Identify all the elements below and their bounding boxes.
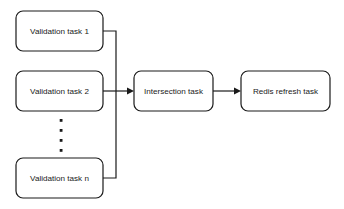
node-validation-task-2[interactable]: Validation task 2 [16,71,103,111]
node-validation-task-n[interactable]: Validation task n [16,158,103,198]
ellipsis-dot [60,149,63,152]
diagram-canvas: Validation task 1 Validation task 2 Vali… [0,0,344,209]
arrowhead-to-intersection [127,88,134,95]
ellipsis-dot [60,139,63,142]
node-validation-task-n-label: Validation task n [30,174,89,183]
connector-task1-to-bus [103,31,116,91]
node-intersection-task-label: Intersection task [144,87,204,96]
arrowhead-to-redis [234,88,241,95]
vertical-ellipsis-icon [60,119,63,152]
connector-taskn-to-bus [103,91,116,178]
node-validation-task-1-label: Validation task 1 [30,27,89,36]
ellipsis-dot [60,119,63,122]
flow-diagram: Validation task 1 Validation task 2 Vali… [0,0,344,209]
node-validation-task-1[interactable]: Validation task 1 [16,11,103,51]
node-redis-refresh-task[interactable]: Redis refresh task [241,71,330,111]
node-validation-task-2-label: Validation task 2 [30,87,89,96]
node-redis-refresh-task-label: Redis refresh task [253,87,319,96]
ellipsis-dot [60,129,63,132]
node-intersection-task[interactable]: Intersection task [134,71,213,111]
